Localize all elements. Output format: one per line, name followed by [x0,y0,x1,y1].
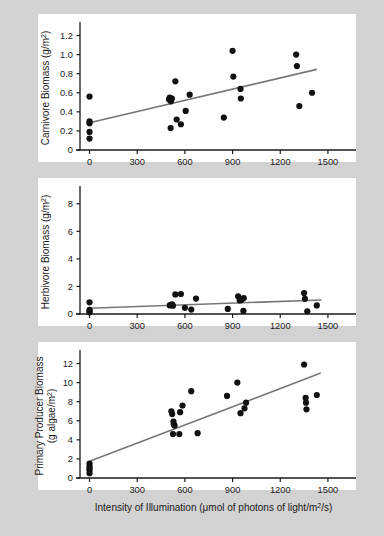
panel-background [38,342,356,490]
data-point [314,392,320,398]
y-axis-title: Carnivore Biomass (g/m2) [40,31,52,146]
x-axis-title-mid: mol of photons of light/m [208,502,317,513]
data-point [193,295,199,301]
y-axis-title: Herbivore Biomass (g/m2) [40,195,52,310]
data-point [301,290,307,296]
x-axis-title-pre: Intensity of Illumination ( [95,502,203,513]
x-tick-label: 0 [87,321,92,331]
data-point [296,103,302,109]
data-point [171,422,177,428]
data-point [243,400,249,406]
x-axis-title-post: /s) [321,502,332,513]
data-point [170,303,176,309]
chart-panel-b: 02468030060090012001500Herbivore Biomass… [38,178,356,331]
data-point [176,431,182,437]
data-point [224,393,230,399]
x-tick-label: 1200 [270,485,291,495]
y-tick-label: 8 [68,199,73,209]
data-point [225,306,231,312]
y-tick-label: 0.8 [60,69,73,79]
data-point [314,302,320,308]
data-point [230,73,236,79]
data-point [86,129,92,135]
x-tick-label: 600 [177,157,193,167]
y-tick-label: 4 [68,435,73,445]
chart-panel-a: 00.20.40.60.81.01.2030060090012001500Car… [38,14,356,167]
y-tick-label: 1.2 [60,31,73,41]
x-tick-label: 1500 [318,157,339,167]
data-point [86,299,92,305]
data-point [86,470,92,476]
y-tick-label: 0 [68,473,73,483]
y-tick-label: 0.6 [60,88,73,98]
data-point [303,406,309,412]
data-point [301,361,307,367]
data-point [238,95,244,101]
y-axis-title-line2: (g algae/m2) [46,389,58,444]
x-tick-label: 1200 [270,157,291,167]
data-point [167,125,173,131]
x-tick-label: 600 [177,485,193,495]
y-tick-label: 1.0 [60,50,73,60]
y-tick-label: 10 [63,378,73,388]
data-point [304,308,310,314]
data-point [172,291,178,297]
y-tick-label: 8 [68,397,73,407]
data-point [229,48,235,54]
data-point [86,93,92,99]
y-axis-title-line1: Primary Producer Biomass [34,357,45,476]
data-point [183,108,189,114]
panel-background [38,14,356,162]
data-point [86,120,92,126]
data-point [221,114,227,120]
data-point [234,380,240,386]
y-axis-title-suffix: ) [40,31,51,34]
x-tick-label: 1500 [318,321,339,331]
y-axis-title-suffix: ) [40,195,51,198]
y-tick-label: 4 [68,254,73,264]
data-point [172,78,178,84]
data-point [86,309,92,315]
data-point [86,135,92,141]
data-point [241,405,247,411]
x-tick-label: 1200 [270,321,291,331]
x-tick-label: 900 [225,157,241,167]
data-point [302,296,308,302]
data-point [182,305,188,311]
x-axis-title: Intensity of Illumination (μmol of photo… [95,502,333,514]
data-point [179,402,185,408]
y-tick-label: 2 [68,454,73,464]
data-point [309,90,315,96]
x-tick-label: 1500 [318,485,339,495]
x-tick-label: 900 [225,321,241,331]
y-axis-title-line2-text: (g algae/m [46,396,57,443]
x-tick-label: 900 [225,485,241,495]
y-tick-label: 12 [63,359,73,369]
y-tick-label: 0.2 [60,126,73,136]
x-tick-label: 0 [87,157,92,167]
y-tick-label: 6 [68,227,73,237]
three-panel-scatter-figure: 00.20.40.60.81.01.2030060090012001500Car… [0,0,384,536]
data-point [177,409,183,415]
x-tick-label: 300 [129,321,145,331]
x-tick-label: 600 [177,321,193,331]
data-point [240,308,246,314]
y-tick-label: 6 [68,416,73,426]
data-point [178,291,184,297]
x-tick-label: 300 [129,485,145,495]
y-tick-label: 0 [68,145,73,155]
x-tick-label: 300 [129,157,145,167]
y-tick-label: 2 [68,282,73,292]
y-axis-title-line2-suffix: ) [46,389,57,392]
data-point [188,306,194,312]
chart-panel-c: 024681012030060090012001500Primary Produ… [34,342,356,513]
y-axis-title-text: Herbivore Biomass (g/m [40,202,51,309]
y-tick-label: 0 [68,309,73,319]
y-axis-title-text: Carnivore Biomass (g/m [40,38,51,145]
data-point [169,95,175,101]
data-point [178,121,184,127]
data-point [241,295,247,301]
x-tick-label: 0 [87,485,92,495]
data-point [237,86,243,92]
data-point [294,63,300,69]
